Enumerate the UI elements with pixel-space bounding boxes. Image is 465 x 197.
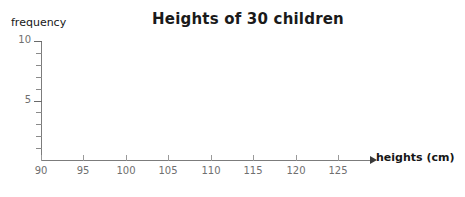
chart-canvas: Heights of 30 children frequency heights…: [0, 0, 465, 197]
y-axis-tick: [36, 77, 42, 78]
x-axis-tick-label: 90: [21, 165, 61, 176]
chart-title: Heights of 30 children: [110, 10, 386, 28]
x-axis-line: [41, 160, 372, 161]
y-axis-tick: [34, 41, 42, 42]
y-axis-tick-label: 5: [5, 94, 31, 105]
y-axis-tick: [36, 89, 42, 90]
y-axis-tick-label: 10: [5, 34, 31, 45]
y-axis-title: frequency: [11, 16, 66, 29]
x-axis-tick: [83, 155, 84, 161]
x-axis-tick-label: 105: [148, 165, 188, 176]
x-axis-tick-label: 115: [233, 165, 273, 176]
x-axis-tick-label: 100: [106, 165, 146, 176]
y-axis-tick: [36, 148, 42, 149]
x-axis-tick-label: 110: [191, 165, 231, 176]
x-axis-tick: [338, 155, 339, 161]
y-axis-tick: [36, 136, 42, 137]
x-axis-tick-label: 120: [276, 165, 316, 176]
y-axis-tick: [36, 124, 42, 125]
plot-area[interactable]: [42, 41, 372, 160]
x-axis-tick-label: 125: [318, 165, 358, 176]
y-axis-tick: [36, 112, 42, 113]
x-axis-tick-label: 95: [63, 165, 103, 176]
x-axis-tick: [296, 155, 297, 161]
x-axis-tick: [253, 155, 254, 161]
y-axis-tick: [36, 53, 42, 54]
y-axis-tick: [36, 65, 42, 66]
x-axis-tick: [168, 155, 169, 161]
y-axis-tick: [34, 101, 42, 102]
x-axis-tick: [211, 155, 212, 161]
x-axis-title: heights (cm): [376, 151, 454, 164]
x-axis-tick: [126, 155, 127, 161]
x-axis-tick: [41, 155, 42, 161]
